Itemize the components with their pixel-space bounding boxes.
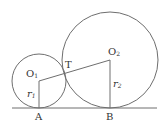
- label-r1: r1: [27, 89, 36, 99]
- label-o2-sub: 2: [116, 50, 120, 57]
- label-r2-sub: 2: [118, 82, 122, 89]
- label-o1: O1: [26, 69, 38, 79]
- label-b: B: [106, 112, 113, 122]
- label-r2: r2: [113, 79, 122, 89]
- segment-o1-o2: [39, 60, 110, 81]
- label-o2-main: O: [108, 46, 116, 57]
- tangent-circles-diagram: O1 O2 T A B r1 r2: [0, 0, 167, 132]
- label-o1-main: O: [26, 68, 34, 79]
- label-a: A: [35, 112, 42, 122]
- diagram-canvas: [0, 0, 167, 132]
- label-o2: O2: [108, 47, 120, 57]
- label-r1-sub: 1: [32, 92, 36, 99]
- label-o1-sub: 1: [34, 72, 38, 79]
- label-t: T: [65, 60, 72, 70]
